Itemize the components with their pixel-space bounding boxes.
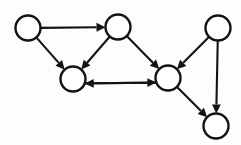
edge-top-right-to-right-middle [177, 37, 209, 69]
node-left-middle[interactable] [61, 67, 86, 92]
edge-top-right-to-right-middle-line [183, 37, 209, 63]
edge-left-middle-to-right-middle [85, 78, 157, 87]
edge-top-left-to-left-middle-line [36, 37, 59, 63]
edge-top-left-to-top-middle-arrowhead [96, 23, 105, 32]
edge-top-left-to-top-middle-line [41, 27, 97, 28]
node-top-middle[interactable] [106, 15, 131, 40]
node-right-middle[interactable] [156, 66, 181, 91]
edge-top-middle-to-right-middle [127, 36, 160, 69]
node-top-right[interactable] [206, 16, 231, 41]
edge-top-middle-to-right-middle-line [127, 36, 153, 63]
node-top-left[interactable] [16, 16, 41, 41]
edge-top-right-to-bottom-right-arrowhead [212, 104, 221, 113]
edge-top-left-to-top-middle [41, 23, 106, 32]
diagram-canvas [0, 0, 241, 145]
edge-top-middle-to-left-middle-line [87, 36, 110, 62]
edge-right-middle-to-bottom-right [177, 87, 207, 117]
edge-top-right-to-bottom-right [212, 41, 221, 114]
directed-graph [0, 0, 241, 145]
edge-left-middle-to-right-middle-line [85, 83, 148, 84]
node-bottom-right[interactable] [204, 114, 229, 139]
edge-top-middle-to-left-middle [81, 36, 110, 69]
edge-top-left-to-left-middle [36, 37, 64, 69]
node-layer [16, 15, 231, 139]
edge-right-middle-to-bottom-right-line [177, 87, 201, 111]
edge-top-right-to-bottom-right-line [216, 41, 217, 105]
